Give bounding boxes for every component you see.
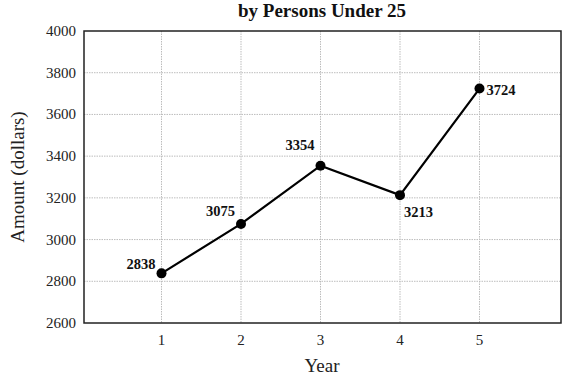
- y-tick-label: 2600: [46, 315, 76, 331]
- plot-frame: [84, 31, 561, 323]
- data-point: [236, 219, 246, 229]
- x-tick-label: 4: [396, 332, 404, 348]
- y-tick-label: 4000: [46, 23, 76, 39]
- data-point-label: 3724: [487, 82, 516, 98]
- data-point-label: 2838: [127, 256, 156, 272]
- y-tick-label: 3600: [46, 106, 76, 122]
- x-tick-label: 2: [237, 332, 245, 348]
- data-point: [316, 161, 326, 171]
- y-tick-label: 3000: [46, 232, 76, 248]
- y-tick-label: 3200: [46, 190, 76, 206]
- data-point: [395, 190, 405, 200]
- data-point-label: 3075: [206, 203, 235, 219]
- data-point-label: 3213: [404, 204, 433, 220]
- y-tick-label: 2800: [46, 273, 76, 289]
- data-point: [475, 84, 485, 94]
- data-point: [157, 268, 167, 278]
- line-chart: by Persons Under 25 26002800300032003400…: [0, 0, 567, 379]
- x-tick-label: 3: [317, 332, 325, 348]
- y-axis-ticks: 26002800300032003400360038004000: [46, 23, 76, 331]
- grid-lines: [84, 31, 561, 323]
- x-tick-label: 1: [158, 332, 166, 348]
- x-axis-label: Year: [304, 355, 340, 376]
- y-axis-label: Amount (dollars): [7, 111, 29, 242]
- data-point-label: 3354: [286, 137, 315, 153]
- y-tick-label: 3800: [46, 65, 76, 81]
- chart-title: by Persons Under 25: [238, 0, 406, 21]
- y-tick-label: 3400: [46, 148, 76, 164]
- x-tick-label: 5: [476, 332, 484, 348]
- x-axis-ticks: 12345: [158, 332, 484, 348]
